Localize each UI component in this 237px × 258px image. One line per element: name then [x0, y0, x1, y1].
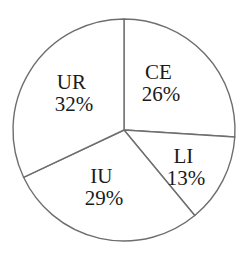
- pie-slices: [13, 19, 235, 241]
- slice-label-ce: CE 26%: [142, 60, 181, 106]
- slice-label-ur: UR 32%: [55, 70, 94, 116]
- pie-slice-ce: [124, 19, 235, 137]
- figure-caption: [0, 247, 237, 258]
- pie-chart: CE 26% LI 13% IU 29% UR 32%: [0, 0, 237, 258]
- slice-label-iu: IU 29%: [85, 164, 124, 210]
